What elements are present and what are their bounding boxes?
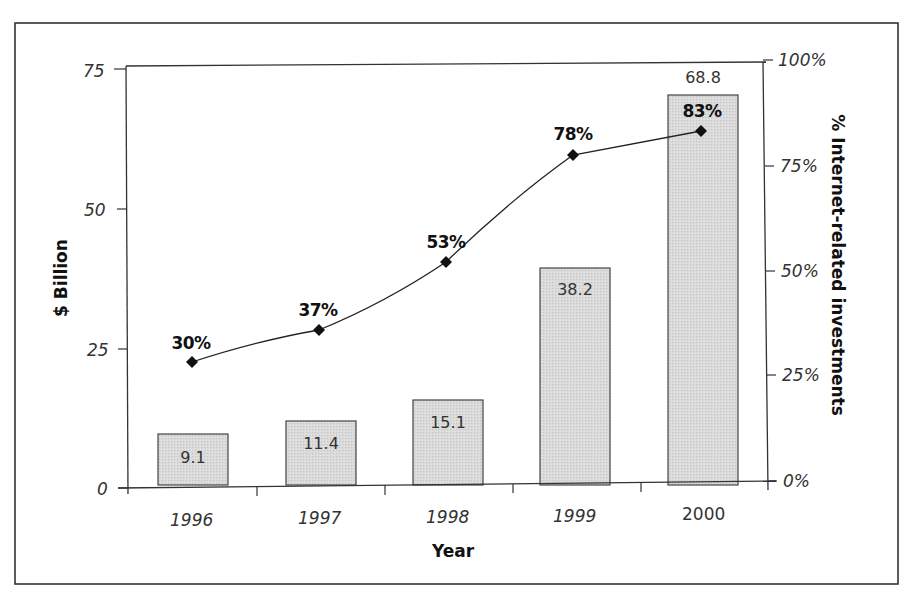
bar-1999 (540, 268, 610, 485)
y2-tick-0: 0% (783, 471, 810, 491)
left-y-tick-labels: 0 25 50 75 (83, 61, 109, 499)
chart: 9.1 11.4 15.1 38.2 68.8 0 25 50 75 1996 … (0, 0, 908, 605)
x-axis-title: Year (431, 541, 475, 561)
y2-tick-25: 25% (782, 365, 820, 385)
line-point-labels: 30% 37% 53% 78% 83% (171, 101, 722, 353)
plot-top-border (126, 62, 766, 66)
y-axis-title: $ Billion (51, 239, 71, 317)
diamond-marker-1997 (313, 324, 325, 336)
x-tick-1996: 1996 (170, 510, 213, 530)
point-label-2000: 83% (682, 101, 722, 121)
diamond-marker-1999 (567, 149, 579, 161)
bar-label-1997: 11.4 (303, 434, 339, 453)
x-tick-1999: 1999 (553, 506, 596, 526)
bar-label-2000: 68.8 (685, 68, 721, 87)
bar-2000 (668, 95, 738, 485)
point-label-1996: 30% (171, 333, 211, 353)
bar-label-1996: 9.1 (180, 448, 205, 467)
y2-axis-title: % Internet-related investments (828, 114, 848, 416)
y2-tick-75: 75% (780, 156, 818, 176)
x-tick-2000: 2000 (682, 504, 725, 524)
right-y-axis (763, 62, 768, 490)
y2-tick-100: 100% (778, 50, 827, 70)
right-y-tick-labels: 100% 75% 50% 25% 0% (778, 50, 827, 491)
y-tick-75: 75 (83, 61, 105, 81)
point-label-1997: 37% (298, 300, 338, 320)
diamond-marker-1996 (186, 356, 198, 368)
bar-label-1999: 38.2 (557, 280, 593, 299)
y-tick-0: 0 (97, 479, 108, 499)
y-tick-50: 50 (84, 200, 106, 220)
y-tick-25: 25 (87, 340, 109, 360)
point-label-1999: 78% (553, 124, 593, 144)
left-y-axis (126, 66, 128, 494)
point-label-1998: 53% (426, 232, 466, 252)
x-tick-1998: 1998 (426, 507, 469, 527)
bar-1997 (286, 421, 356, 485)
x-tick-1997: 1997 (298, 508, 341, 528)
y2-tick-50: 50% (781, 261, 819, 281)
bar-label-1998: 15.1 (430, 413, 466, 432)
x-axis-tick-labels: 1996 1997 1998 1999 2000 (170, 504, 725, 530)
